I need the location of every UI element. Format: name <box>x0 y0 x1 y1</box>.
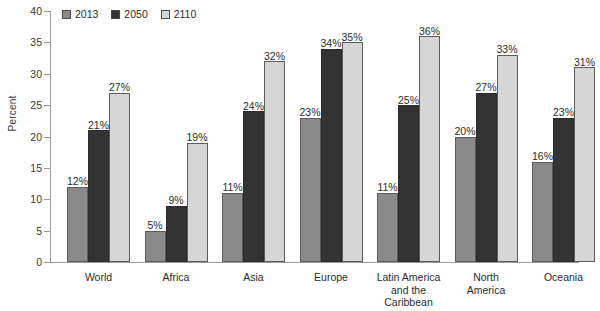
bar-value-label: 11% <box>377 182 397 193</box>
y-axis-tick-label-wrap: 5 <box>14 226 42 237</box>
x-axis-label-line: Europe <box>286 271 376 284</box>
bar-value-label: 34% <box>320 38 341 49</box>
bar-group: 16%23%31% <box>532 11 595 262</box>
y-axis-tick-label-wrap: 15 <box>14 163 42 174</box>
bar-group: 12%21%27% <box>67 11 130 262</box>
bar-value-label: 19% <box>186 132 207 143</box>
x-axis-label: Africa <box>131 271 221 284</box>
y-axis-tick-label: 15 <box>20 163 42 174</box>
bar-value-label: 33% <box>496 44 517 55</box>
x-axis-label-line: Caribbean <box>364 296 454 309</box>
y-axis-tick-label: 25 <box>20 100 42 111</box>
bar-2050-world: 21% <box>88 130 109 262</box>
x-axis-label: Europe <box>286 271 376 284</box>
x-axis-label-line: Latin America <box>364 271 454 284</box>
x-axis-label: NorthAmerica <box>441 271 531 296</box>
bar-value-label: 21% <box>88 120 109 131</box>
bar-value-label: 27% <box>109 82 130 93</box>
bar-value-label: 23% <box>553 107 574 118</box>
y-axis-tick-label: 30 <box>20 69 42 80</box>
bar-value-label: 25% <box>398 95 419 106</box>
bar-value-label: 35% <box>341 32 362 43</box>
x-axis-label-line: Africa <box>131 271 221 284</box>
y-axis-tick-label-wrap: 25 <box>14 100 42 111</box>
bar-2110-world: 27% <box>109 93 130 262</box>
bar-value-label: 12% <box>67 176 88 187</box>
y-axis-tick-label: 10 <box>20 194 42 205</box>
bar-value-label: 27% <box>475 82 496 93</box>
y-axis-tick-label-wrap: 0 <box>14 257 42 268</box>
bar-group: 11%24%32% <box>222 11 285 262</box>
bar-group: 5%9%19% <box>145 11 208 262</box>
bar-2013-africa: 5% <box>145 231 166 262</box>
bar-value-label: 31% <box>574 57 595 68</box>
bar-2050-north-america: 27% <box>476 93 497 262</box>
bar-value-label: 11% <box>222 182 242 193</box>
y-axis-tick-label-wrap: 40 <box>14 6 42 17</box>
bar-2110-latin-america-and-the-caribbean: 36% <box>419 36 440 262</box>
bar-group: 20%27%33% <box>455 11 518 262</box>
x-axis-label-line: North <box>441 271 531 284</box>
y-axis-tick-label: 35 <box>20 37 42 48</box>
bar-value-label: 9% <box>168 195 183 206</box>
x-axis-label-line: Oceania <box>519 271 600 284</box>
y-axis-tick-label-wrap: 30 <box>14 69 42 80</box>
x-axis-label: World <box>54 271 144 284</box>
bar-2013-north-america: 20% <box>455 137 476 263</box>
bar-value-label: 36% <box>419 26 440 37</box>
bar-group: 11%25%36% <box>377 11 440 262</box>
bar-2110-north-america: 33% <box>497 55 518 262</box>
y-axis-tick-label-wrap: 10 <box>14 194 42 205</box>
bar-2050-asia: 24% <box>243 111 264 262</box>
bar-2050-latin-america-and-the-caribbean: 25% <box>398 105 419 262</box>
bar-group: 23%34%35% <box>300 11 363 262</box>
x-axis-line <box>50 262 579 263</box>
bar-2013-world: 12% <box>67 187 88 262</box>
plot-area: 12%21%27%5%9%19%11%24%32%23%34%35%11%25%… <box>51 11 579 262</box>
y-axis-tick-label-wrap: 35 <box>14 37 42 48</box>
bar-value-label: 23% <box>299 107 320 118</box>
bar-2050-africa: 9% <box>166 206 187 262</box>
x-axis-label-line: America <box>441 284 531 297</box>
bar-2050-europe: 34% <box>321 49 342 262</box>
x-axis-label-line: World <box>54 271 144 284</box>
bar-value-label: 16% <box>532 151 553 162</box>
bar-value-label: 20% <box>454 126 475 137</box>
y-axis-tick-label: 5 <box>20 226 42 237</box>
bar-value-label: 5% <box>147 220 162 231</box>
x-axis-label: Latin Americaand theCaribbean <box>364 271 454 309</box>
bar-2110-africa: 19% <box>187 143 208 262</box>
x-axis-label-line: and the <box>364 284 454 297</box>
bar-2013-latin-america-and-the-caribbean: 11% <box>377 193 398 262</box>
y-axis-tick-label-wrap: 20 <box>14 132 42 143</box>
y-axis-tick-label: 20 <box>20 132 42 143</box>
x-axis-label: Oceania <box>519 271 600 284</box>
bar-2013-asia: 11% <box>222 193 243 262</box>
x-axis-label: Asia <box>209 271 299 284</box>
bar-2050-oceania: 23% <box>553 118 574 262</box>
y-axis-tick-label: 40 <box>20 6 42 17</box>
bar-2110-europe: 35% <box>342 42 363 262</box>
bar-2110-oceania: 31% <box>574 67 595 262</box>
y-axis-tick-label: 0 <box>20 257 42 268</box>
bar-2110-asia: 32% <box>264 61 285 262</box>
bar-value-label: 32% <box>264 51 285 62</box>
x-axis-label-line: Asia <box>209 271 299 284</box>
bar-2013-europe: 23% <box>300 118 321 262</box>
bar-2013-oceania: 16% <box>532 162 553 262</box>
bar-value-label: 24% <box>243 101 264 112</box>
